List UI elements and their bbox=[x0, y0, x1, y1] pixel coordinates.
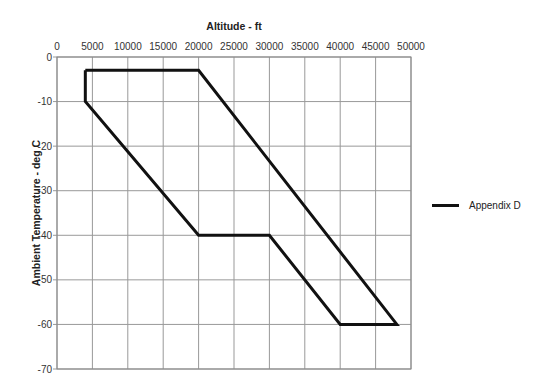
x-tick-label: 25000 bbox=[220, 41, 248, 52]
y-tick-label: 0 bbox=[46, 52, 52, 63]
legend-line-icon bbox=[432, 204, 459, 207]
chart: Altitude - ft 05000100001500020000250003… bbox=[0, 0, 544, 392]
grid bbox=[53, 57, 411, 369]
y-tick-label: -10 bbox=[38, 96, 53, 107]
x-tick-label: 45000 bbox=[362, 41, 390, 52]
y-axis-title: Ambient Temperature - deg C bbox=[30, 139, 42, 286]
legend: Appendix D bbox=[432, 200, 521, 211]
x-tick-label: 30000 bbox=[255, 41, 283, 52]
legend-label: Appendix D bbox=[469, 200, 521, 211]
x-tick-label: 5000 bbox=[81, 41, 104, 52]
y-tick-label: -70 bbox=[38, 364, 53, 375]
x-tick-label: 35000 bbox=[291, 41, 319, 52]
x-tick-label: 50000 bbox=[397, 41, 425, 52]
x-axis-ticks: 0500010000150002000025000300003500040000… bbox=[54, 41, 425, 52]
series-appendix-d bbox=[85, 70, 397, 324]
x-tick-label: 15000 bbox=[149, 41, 177, 52]
x-tick-label: 10000 bbox=[114, 41, 142, 52]
x-axis-title: Altitude - ft bbox=[206, 20, 262, 32]
y-tick-label: -60 bbox=[38, 319, 53, 330]
x-tick-label: 40000 bbox=[326, 41, 354, 52]
x-tick-label: 0 bbox=[54, 41, 60, 52]
x-tick-label: 20000 bbox=[185, 41, 213, 52]
